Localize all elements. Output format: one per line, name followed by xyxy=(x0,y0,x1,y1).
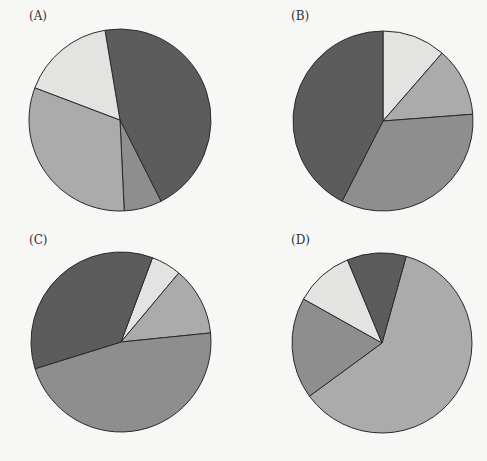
panel-label-d: (D) xyxy=(291,233,310,247)
pie-a xyxy=(29,29,211,211)
pie-b xyxy=(293,31,473,211)
pie-c xyxy=(31,252,211,432)
panel-label-b: (B) xyxy=(291,9,309,23)
panel-label-a: (A) xyxy=(29,9,47,23)
pie-d xyxy=(292,253,472,433)
pie-charts-canvas xyxy=(0,0,487,461)
panel-label-c: (C) xyxy=(29,233,48,247)
